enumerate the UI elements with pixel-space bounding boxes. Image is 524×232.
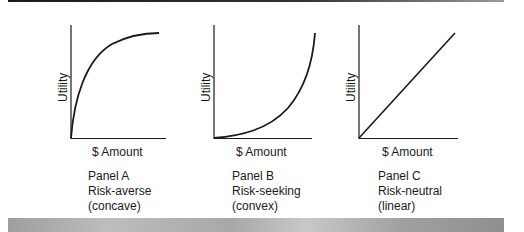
panel-c-shape: (linear): [378, 199, 442, 214]
bottom-gray-band: [8, 218, 504, 232]
panel-b-y-label: Utility: [199, 73, 213, 102]
panel-c-plot: [359, 25, 458, 139]
panel-b-x-label: $ Amount: [236, 145, 287, 159]
panel-c-x-label: $ Amount: [382, 145, 433, 159]
panel-c-title: Panel C: [378, 169, 442, 184]
panel-c-y-label: Utility: [344, 73, 358, 102]
panel-c-type: Risk-neutral: [378, 184, 442, 199]
panel-a-plot: [71, 25, 166, 139]
panel-a-shape: (concave): [88, 199, 151, 214]
panel-b-plot: [214, 25, 315, 139]
panel-a-y-label: Utility: [56, 73, 70, 102]
panel-a-title: Panel A: [88, 169, 151, 184]
panel-b-caption: Panel B Risk-seeking (convex): [232, 169, 301, 214]
panel-a-type: Risk-averse: [88, 184, 151, 199]
panel-a-caption: Panel A Risk-averse (concave): [88, 169, 151, 214]
panel-c-caption: Panel C Risk-neutral (linear): [378, 169, 442, 214]
panel-b-type: Risk-seeking: [232, 184, 301, 199]
panel-a-x-label: $ Amount: [92, 145, 143, 159]
panel-a-concave-curve: [71, 33, 159, 138]
panel-b-title: Panel B: [232, 169, 301, 184]
panel-b-shape: (convex): [232, 199, 301, 214]
panel-b-convex-curve: [214, 33, 315, 138]
panel-c-linear-line: [359, 33, 455, 138]
